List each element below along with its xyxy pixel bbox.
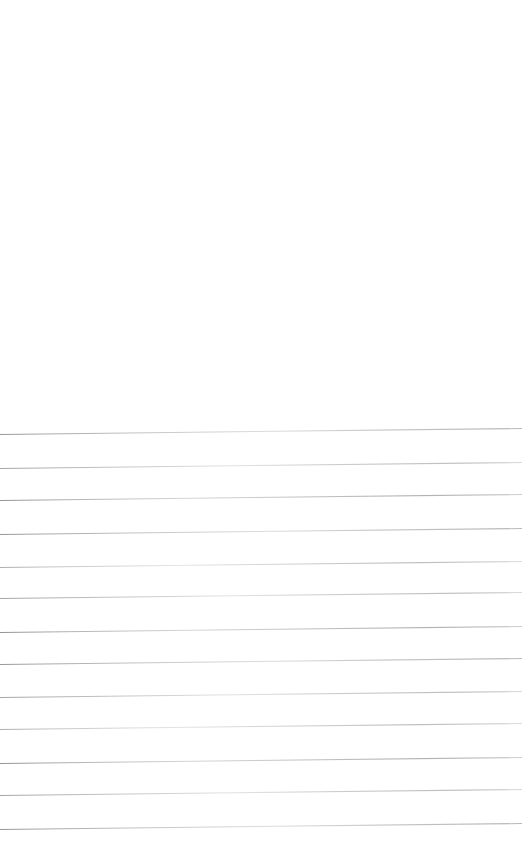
rule-line — [0, 561, 522, 568]
rule-line — [0, 757, 522, 764]
rule-line — [0, 691, 522, 698]
rule-line — [0, 823, 522, 830]
rule-line — [0, 428, 522, 435]
rule-line — [0, 528, 522, 535]
rule-line — [0, 626, 522, 633]
rule-line — [0, 723, 522, 730]
rule-line — [0, 494, 522, 501]
rule-line — [0, 789, 522, 796]
rule-line — [0, 658, 522, 665]
rule-line — [0, 592, 522, 599]
ruled-lines-area — [0, 0, 522, 867]
scanned-page — [0, 0, 522, 867]
rule-line — [0, 462, 522, 469]
